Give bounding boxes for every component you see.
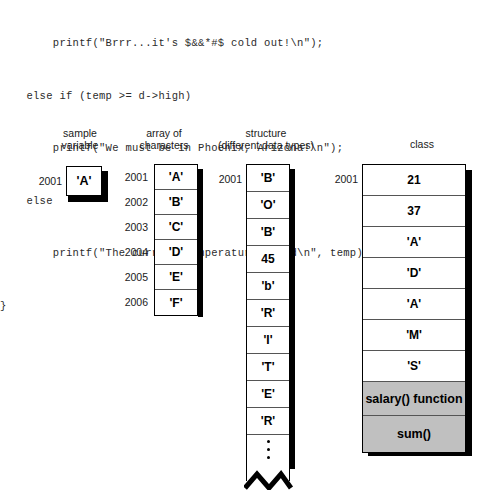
memory-cell: 'I'	[247, 327, 289, 354]
memory-cell: 'T'	[247, 354, 289, 381]
address-label: 2001	[324, 174, 358, 185]
memory-cell: 'C'	[155, 215, 197, 240]
address-label: 2001	[208, 174, 242, 185]
address-label: 2005	[114, 272, 148, 283]
ellipsis-dot	[267, 448, 270, 451]
memory-cell: 'B'	[155, 190, 197, 215]
column-title-array-of-characters: array of characters	[114, 128, 214, 151]
memory-cell: 'A'	[363, 289, 465, 320]
memory-stack-array: 'A' 'B' 'C' 'D' 'E' 'F'	[154, 164, 198, 316]
stack-shadow-right	[198, 169, 203, 317]
address-label: 2001	[114, 172, 148, 183]
memory-cell: 'B'	[247, 165, 289, 192]
memory-cell: 'R'	[247, 300, 289, 327]
column-title-structure: structure (different data types)	[208, 128, 324, 151]
memory-cell: 'R'	[247, 408, 289, 435]
memory-cell: 'A'	[66, 166, 102, 196]
memory-cell: 'M'	[363, 320, 465, 351]
memory-cell: 'A'	[155, 165, 197, 190]
code-line: printf("Brrr...it's $&&*#$ cold out!\n")…	[0, 35, 488, 53]
memory-cell: 'F'	[155, 290, 197, 315]
memory-stack-structure: 'B' 'O' 'B' 45 'b' 'R' 'I' 'T' 'E' 'R'	[246, 164, 290, 481]
code-line: else if (temp >= d->high)	[0, 88, 488, 106]
ellipsis-dot	[267, 440, 270, 443]
stack-shadow-right	[290, 169, 295, 469]
memory-cell: 21	[363, 165, 465, 196]
address-label: 2004	[114, 247, 148, 258]
memory-cell: 'D'	[363, 258, 465, 289]
box-shadow-bottom	[68, 196, 108, 202]
memory-cell: 'E'	[155, 265, 197, 290]
memory-cell: 'A'	[363, 227, 465, 258]
memory-cell: 45	[247, 246, 289, 273]
memory-cell: 37	[363, 196, 465, 227]
memory-cell-method: sum()	[363, 416, 465, 452]
memory-layout-diagram: sample variable 'A' 2001 array of charac…	[0, 128, 488, 502]
column-title-sample-variable: sample variable	[44, 128, 116, 151]
address-label: 2001	[28, 176, 62, 187]
memory-cell: 'D'	[155, 240, 197, 265]
address-label: 2006	[114, 297, 148, 308]
memory-cell: 'B'	[247, 219, 289, 246]
torn-edge-icon	[244, 458, 294, 490]
memory-stack-class: 21 37 'A' 'D' 'A' 'M' 'S' salary() funct…	[362, 164, 466, 453]
column-title-class: class	[362, 139, 482, 151]
memory-cell: 'O'	[247, 192, 289, 219]
address-label: 2003	[114, 222, 148, 233]
address-label: 2002	[114, 197, 148, 208]
memory-cell-method: salary() function	[363, 382, 465, 416]
memory-cell: 'E'	[247, 381, 289, 408]
memory-cell: 'b'	[247, 273, 289, 300]
memory-cell: 'S'	[363, 351, 465, 382]
stack-shadow-right	[466, 170, 472, 456]
